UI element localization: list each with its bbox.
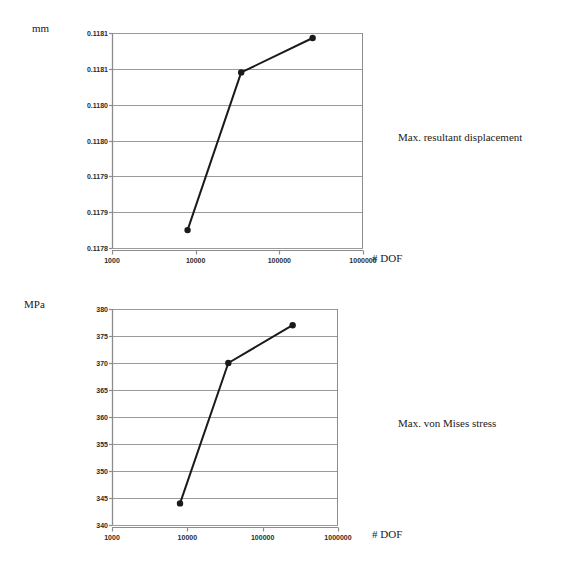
y-axis-tick-label: 355 bbox=[72, 441, 108, 448]
figure-max-resultant-displacement: mm Max. resultant displacement # DOF 0.1… bbox=[0, 0, 571, 285]
x-axis-tick-label: 1000 bbox=[104, 534, 120, 541]
y-axis-tick-label: 365 bbox=[72, 387, 108, 394]
data-point-marker bbox=[177, 500, 183, 506]
y-axis-tick-label: 340 bbox=[72, 522, 108, 529]
x-axis-tick-label: 10000 bbox=[178, 534, 197, 541]
y-axis-tick-label: 345 bbox=[72, 495, 108, 502]
y-axis-tick-label: 350 bbox=[72, 468, 108, 475]
data-series-line bbox=[188, 38, 313, 230]
data-point-marker bbox=[184, 227, 190, 233]
y-axis-tick-label: 0.1181 bbox=[72, 65, 108, 72]
y-axis-tick-label: 0.1181 bbox=[72, 30, 108, 37]
figure-max-von-mises-stress: MPa Max. von Mises stress # DOF 38037537… bbox=[0, 285, 571, 570]
x-axis-tick-label: 1000 bbox=[104, 257, 120, 264]
y-axis-tick-label: 380 bbox=[72, 306, 108, 313]
plot-area-displacement: 0.11810.11810.11800.11800.11790.11790.11… bbox=[0, 0, 571, 285]
plot-area-stress: 3803753703653603553503453401000100001000… bbox=[0, 285, 571, 570]
y-axis-tick-label: 0.1180 bbox=[72, 101, 108, 108]
x-axis-tick-label: 10000 bbox=[186, 257, 205, 264]
y-axis-tick-label: 0.1178 bbox=[72, 245, 108, 252]
data-point-marker bbox=[238, 69, 244, 75]
x-axis-tick-label: 1000000 bbox=[349, 257, 376, 264]
data-series-line bbox=[180, 325, 293, 503]
data-point-marker bbox=[309, 35, 315, 41]
x-axis-tick-label: 1000000 bbox=[324, 534, 351, 541]
data-point-marker bbox=[289, 322, 295, 328]
x-axis-tick-label: 100000 bbox=[268, 257, 291, 264]
x-axis-tick-label: 100000 bbox=[251, 534, 274, 541]
y-axis-tick-label: 370 bbox=[72, 360, 108, 367]
y-axis-tick-label: 0.1180 bbox=[72, 137, 108, 144]
y-axis-tick-label: 0.1179 bbox=[72, 209, 108, 216]
y-axis-tick-label: 375 bbox=[72, 333, 108, 340]
y-axis-tick-label: 360 bbox=[72, 414, 108, 421]
y-axis-tick-label: 0.1179 bbox=[72, 173, 108, 180]
data-point-marker bbox=[225, 360, 231, 366]
